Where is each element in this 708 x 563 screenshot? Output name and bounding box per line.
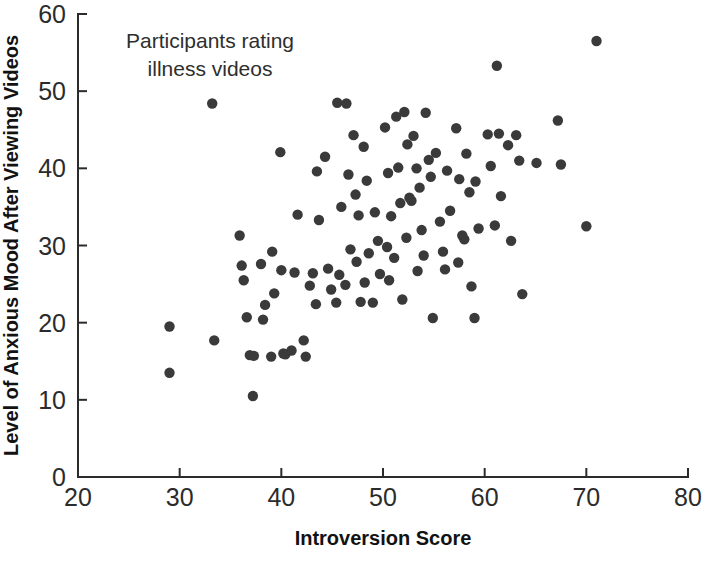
data-point xyxy=(466,281,476,291)
data-point xyxy=(350,189,360,199)
x-tick-label: 20 xyxy=(64,483,92,511)
x-tick-label: 60 xyxy=(471,483,499,511)
data-point xyxy=(341,98,351,108)
data-point xyxy=(399,107,409,117)
annotation-line-1: Participants rating xyxy=(126,29,294,52)
data-point xyxy=(249,351,259,361)
data-point xyxy=(440,264,450,274)
data-point xyxy=(258,314,268,324)
data-point xyxy=(494,128,504,138)
data-point xyxy=(451,123,461,133)
data-point xyxy=(355,297,365,307)
data-point xyxy=(395,198,405,208)
data-point xyxy=(490,220,500,230)
data-point xyxy=(412,266,422,276)
y-axis-title: Level of Anxious Mood After Viewing Vide… xyxy=(0,35,22,456)
data-point xyxy=(553,115,563,125)
data-point xyxy=(312,166,322,176)
y-tick-label: 0 xyxy=(52,463,66,491)
data-point xyxy=(348,130,358,140)
data-point xyxy=(435,216,445,226)
data-point xyxy=(332,98,342,108)
data-points xyxy=(164,36,601,401)
data-point xyxy=(207,98,217,108)
x-tick-label: 40 xyxy=(267,483,295,511)
data-point xyxy=(353,210,363,220)
plot-annotation: Participants ratingillness videos xyxy=(126,29,294,80)
data-point xyxy=(483,129,493,139)
data-point xyxy=(362,175,372,185)
data-point xyxy=(402,139,412,149)
data-point xyxy=(382,242,392,252)
data-point xyxy=(514,155,524,165)
data-point xyxy=(358,142,368,152)
data-point xyxy=(370,207,380,217)
data-point xyxy=(308,268,318,278)
data-point xyxy=(343,169,353,179)
data-point xyxy=(473,223,483,233)
x-axis-title: Introversion Score xyxy=(295,527,472,549)
data-point xyxy=(421,108,431,118)
data-point xyxy=(275,147,285,157)
data-point xyxy=(164,368,174,378)
data-point xyxy=(311,299,321,309)
data-point xyxy=(209,335,219,345)
data-point xyxy=(397,294,407,304)
data-point xyxy=(299,335,309,345)
y-tick-label: 10 xyxy=(38,386,66,414)
data-point xyxy=(266,351,276,361)
y-tick-label: 40 xyxy=(38,154,66,182)
x-tick-label: 50 xyxy=(369,483,397,511)
data-point xyxy=(260,300,270,310)
data-point xyxy=(511,130,521,140)
annotation-line-2: illness videos xyxy=(148,57,273,80)
data-point xyxy=(486,161,496,171)
data-point xyxy=(442,165,452,175)
data-point xyxy=(305,280,315,290)
y-tick-label: 60 xyxy=(38,0,66,28)
data-point xyxy=(236,260,246,270)
data-point xyxy=(506,236,516,246)
data-point xyxy=(364,248,374,258)
data-point xyxy=(320,152,330,162)
data-point xyxy=(351,257,361,267)
data-point xyxy=(289,267,299,277)
data-point xyxy=(386,211,396,221)
data-point xyxy=(292,209,302,219)
data-point xyxy=(408,131,418,141)
data-point xyxy=(301,351,311,361)
data-point xyxy=(416,225,426,235)
data-point xyxy=(556,159,566,169)
data-point xyxy=(393,162,403,172)
data-point xyxy=(375,269,385,279)
data-point xyxy=(470,176,480,186)
data-point xyxy=(368,297,378,307)
data-point xyxy=(492,60,502,70)
data-point xyxy=(360,277,370,287)
data-point xyxy=(336,202,346,212)
data-point xyxy=(426,172,436,182)
data-point xyxy=(459,234,469,244)
x-tick-label: 30 xyxy=(166,483,194,511)
data-point xyxy=(239,275,249,285)
data-point xyxy=(591,36,601,46)
data-point xyxy=(461,148,471,158)
data-point xyxy=(242,312,252,322)
data-point xyxy=(445,206,455,216)
data-point xyxy=(517,289,527,299)
x-tick-label: 70 xyxy=(572,483,600,511)
data-point xyxy=(503,140,513,150)
data-point xyxy=(314,215,324,225)
data-point xyxy=(286,345,296,355)
data-point xyxy=(389,253,399,263)
data-point xyxy=(373,236,383,246)
data-point xyxy=(248,391,258,401)
data-point xyxy=(581,221,591,231)
data-point xyxy=(276,265,286,275)
data-point xyxy=(411,163,421,173)
data-point xyxy=(380,122,390,132)
data-point xyxy=(431,148,441,158)
data-point xyxy=(453,257,463,267)
data-point xyxy=(234,230,244,240)
data-point xyxy=(345,244,355,254)
